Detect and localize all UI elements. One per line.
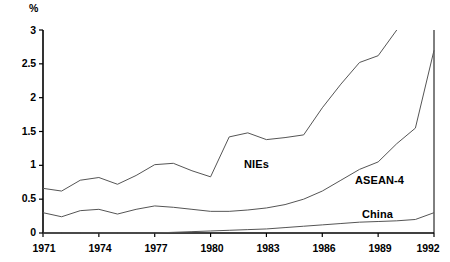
line-chart: % 0 0.5 1 1.5 2 2.5 3 1971 1974 1977 198… (0, 0, 450, 262)
series-lines (43, 30, 434, 233)
series-line-china (43, 213, 434, 233)
plot-area (0, 0, 450, 262)
series-line-asean-4 (43, 50, 434, 216)
axes (43, 30, 434, 233)
series-line-nies (43, 30, 397, 191)
